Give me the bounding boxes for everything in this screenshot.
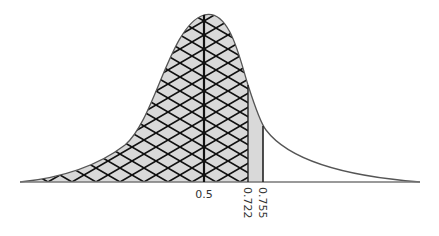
lower-bound-label: 0.722 (241, 187, 254, 219)
mode-label: 0.5 (195, 188, 213, 201)
density-area-hatched (20, 14, 420, 182)
density-chart: 0.5 0.722 0.755 (0, 0, 439, 236)
upper-bound-label: 0.755 (256, 187, 269, 219)
